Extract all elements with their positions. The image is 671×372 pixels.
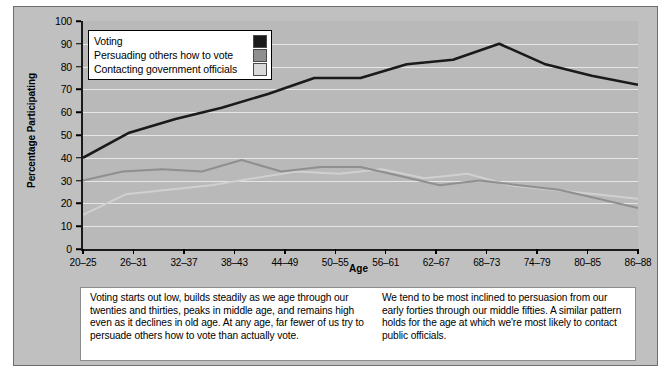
y-axis-tick-label: 30 xyxy=(42,175,72,187)
x-axis-tick-mark xyxy=(335,249,337,254)
legend-item: Persuading others how to vote xyxy=(94,48,267,62)
legend-swatch xyxy=(253,63,267,76)
x-axis-title: Age xyxy=(81,263,636,274)
y-axis-tick-label: 0 xyxy=(42,243,72,255)
x-axis-tick-mark xyxy=(183,249,185,254)
y-axis-tick-mark xyxy=(76,20,81,22)
caption-right: We tend to be most inclined to persuasio… xyxy=(373,288,635,360)
x-axis-tick-mark xyxy=(385,249,387,254)
figure-panel: Percentage Participating 100908070605040… xyxy=(13,6,658,366)
caption-box: Voting starts out low, builds steadily a… xyxy=(80,287,636,361)
y-axis-tick-label: 10 xyxy=(42,220,72,232)
y-axis-tick-label: 70 xyxy=(42,83,72,95)
y-axis-tick-label: 60 xyxy=(42,106,72,118)
legend-item-label: Persuading others how to vote xyxy=(94,49,233,61)
x-axis-tick-mark xyxy=(133,249,135,254)
legend-item-label: Contacting government officials xyxy=(94,63,237,75)
y-axis-tick-label: 20 xyxy=(42,197,72,209)
y-axis-tick-mark xyxy=(76,203,81,205)
x-axis-tick-mark xyxy=(284,249,286,254)
y-axis-tick-mark xyxy=(76,66,81,68)
y-axis-tick-mark xyxy=(76,89,81,91)
legend-item: Contacting government officials xyxy=(94,62,267,76)
x-axis-tick-mark xyxy=(637,249,639,254)
y-axis-tick-mark xyxy=(76,248,81,250)
y-axis-tick-mark xyxy=(76,134,81,136)
legend-swatch xyxy=(253,35,267,48)
y-axis-tick-mark xyxy=(76,180,81,182)
caption-left: Voting starts out low, builds steadily a… xyxy=(81,288,373,360)
legend-swatch xyxy=(253,49,267,62)
x-axis-tick-mark xyxy=(587,249,589,254)
x-axis-tick-mark xyxy=(486,249,488,254)
x-axis-tick-mark xyxy=(234,249,236,254)
y-axis-tick-label: 40 xyxy=(42,152,72,164)
y-axis-tick-mark xyxy=(76,157,81,159)
y-axis-ticks: 1009080706050403020100 xyxy=(42,21,72,249)
x-axis-tick-mark xyxy=(82,249,84,254)
series-line xyxy=(83,160,638,208)
series-line xyxy=(83,169,638,215)
y-axis-tick-mark xyxy=(76,225,81,227)
y-axis-tick-label: 100 xyxy=(42,15,72,27)
chart-area: Percentage Participating 100908070605040… xyxy=(14,7,659,285)
x-axis-tick-mark xyxy=(435,249,437,254)
x-axis-tick-mark xyxy=(536,249,538,254)
y-axis-tick-label: 80 xyxy=(42,61,72,73)
legend-item: Voting xyxy=(94,34,267,48)
chart-legend: VotingPersuading others how to voteConta… xyxy=(88,30,272,80)
y-axis-tick-mark xyxy=(76,111,81,113)
y-axis-tick-mark xyxy=(76,43,81,45)
y-axis-title: Percentage Participating xyxy=(26,61,37,201)
y-axis-tick-label: 50 xyxy=(42,129,72,141)
y-axis-tick-label: 90 xyxy=(42,38,72,50)
legend-item-label: Voting xyxy=(94,35,123,47)
